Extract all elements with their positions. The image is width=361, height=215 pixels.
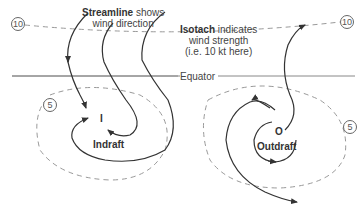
indraft-center: I [100, 113, 103, 124]
isotach-value-right: 5 [343, 120, 357, 134]
indraft-label: Indraft [93, 139, 124, 150]
outdraft-label: Outdraft [257, 141, 296, 152]
streamline-out-north [284, 25, 305, 130]
isotach-5-right [203, 86, 345, 188]
equator-label: Equator [180, 71, 218, 82]
streamline-2 [102, 23, 137, 136]
streamline-label: Streamline shows wind direction [82, 7, 164, 29]
isotach-value-top-right: 10 [340, 15, 354, 29]
isotach-label: Isotach indicates wind strength (i.e. 10… [180, 24, 257, 57]
isotach-value-top-left: 10 [11, 17, 25, 31]
outdraft-center: O [275, 126, 283, 137]
isotach-value-left: 5 [43, 98, 57, 112]
